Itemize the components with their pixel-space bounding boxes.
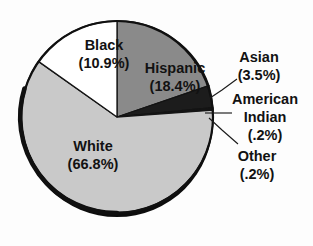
pie-label-hispanic-name: Hispanic bbox=[145, 60, 205, 76]
pie-label-hispanic-value: (18.4%) bbox=[150, 78, 201, 94]
pie-label-american-indian-line1: American bbox=[232, 91, 298, 107]
pie-label-american-indian-line2: Indian bbox=[244, 109, 287, 125]
pie-label-white-name: White bbox=[73, 138, 112, 154]
callout-labels: Asian (3.5%) American Indian (.2%) Other… bbox=[232, 49, 298, 182]
leader-line-other bbox=[209, 118, 238, 144]
pie-label-asian-name: Asian bbox=[239, 49, 279, 65]
pie-label-american-indian-value: (.2%) bbox=[248, 127, 283, 143]
pie-label-other-name: Other bbox=[238, 148, 277, 164]
pie-label-asian-value: (3.5%) bbox=[238, 67, 281, 83]
pie-label-black-value: (10.9%) bbox=[79, 55, 130, 71]
pie-label-white-value: (66.8%) bbox=[68, 156, 119, 172]
pie-chart-figure: Black (10.9%) Hispanic (18.4%) White (66… bbox=[0, 0, 313, 246]
pie-chart-canvas: Black (10.9%) Hispanic (18.4%) White (66… bbox=[0, 0, 313, 246]
pie-label-black-name: Black bbox=[85, 37, 125, 53]
pie-label-other-value: (.2%) bbox=[240, 166, 275, 182]
